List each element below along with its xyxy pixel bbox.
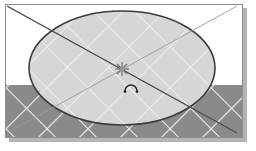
center-point-dot — [120, 67, 124, 71]
shape-label: Cylinder — [0, 0, 1, 1]
center-snap-star-icon[interactable] — [115, 62, 129, 76]
scene-title: Cylinder top with construction diagonals — [0, 0, 1, 1]
top-face-label: Top face — [0, 0, 1, 1]
scene-graphics — [6, 5, 242, 137]
drawing-frame[interactable] — [5, 4, 243, 138]
floor-label: Grid floor — [0, 0, 1, 1]
viewport-scene[interactable] — [6, 5, 242, 137]
screenshot-canvas: Cylinder top with construction diagonals… — [0, 0, 256, 151]
view-name: 3D Viewport — [0, 0, 1, 1]
